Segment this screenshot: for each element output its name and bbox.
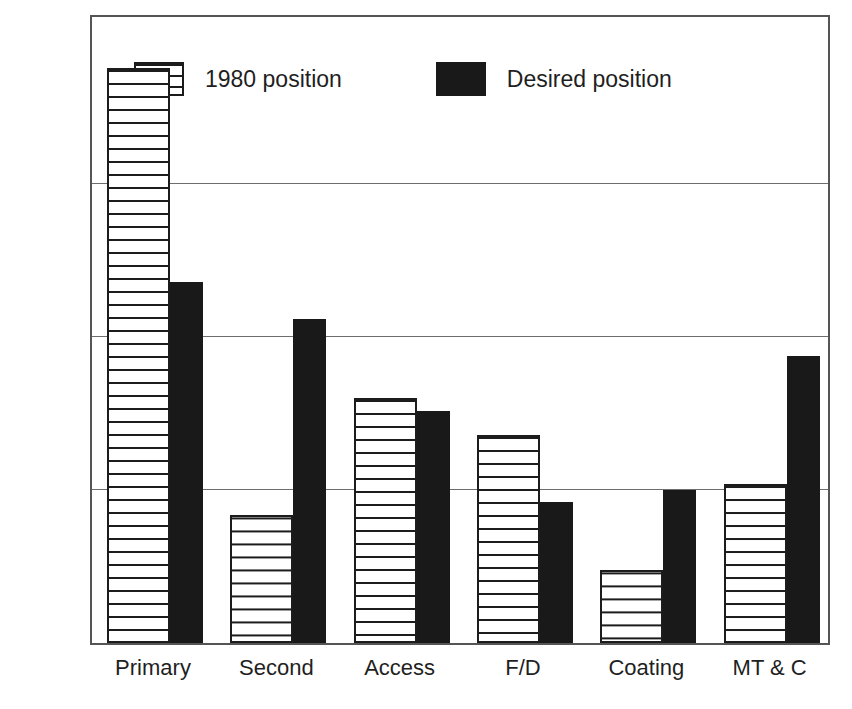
x-tick-label-mt-c: MT & C <box>733 655 807 681</box>
legend-label-1: 1980 position <box>205 66 342 93</box>
bar-chart-figure: % of product line 1980 positionDesired p… <box>0 0 852 709</box>
x-tick-label-access: Access <box>364 655 435 681</box>
bar-f-d-series1 <box>477 435 540 643</box>
legend-label-2: Desired position <box>507 66 672 93</box>
bar-access-series1 <box>354 398 417 643</box>
legend-entry-2: Desired position <box>436 62 672 96</box>
bar-coating-series1 <box>600 570 663 643</box>
bar-primary-series2 <box>170 282 203 643</box>
bar-coating-series2 <box>663 490 696 643</box>
x-tick-label-coating: Coating <box>608 655 684 681</box>
plot-area <box>90 15 830 645</box>
bar-mt-c-series1 <box>724 484 787 643</box>
bar-f-d-series2 <box>540 502 573 643</box>
chart-legend: 1980 positionDesired position <box>134 62 672 96</box>
solid-swatch-icon <box>436 62 486 96</box>
x-tick-label-primary: Primary <box>115 655 191 681</box>
bar-second-series2 <box>293 319 326 643</box>
bar-primary-series1 <box>107 68 170 643</box>
x-tick-label-second: Second <box>239 655 314 681</box>
x-tick-label-f-d: F/D <box>505 655 540 681</box>
bar-access-series2 <box>417 411 450 643</box>
bar-mt-c-series2 <box>787 356 820 643</box>
bar-groups <box>92 17 828 643</box>
bar-second-series1 <box>230 515 293 643</box>
y-axis-title: % of product line <box>0 0 90 709</box>
x-axis-tick-labels: PrimarySecondAccessF/DCoatingMT & C <box>90 655 830 695</box>
